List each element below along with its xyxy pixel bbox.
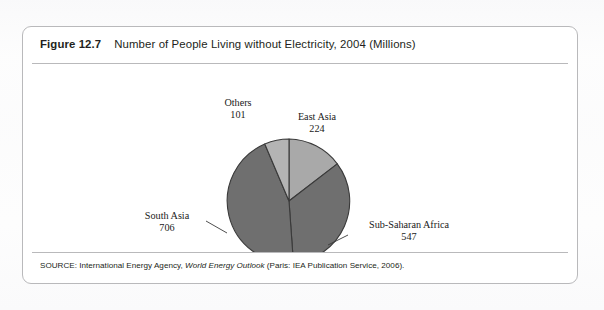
pie-label-east-asia-value: 224 — [281, 123, 353, 135]
pie-label-south-asia: South Asia 706 — [125, 210, 209, 234]
pie-label-south-asia-value: 706 — [125, 222, 209, 234]
pie-label-east-asia: East Asia 224 — [281, 111, 353, 135]
pie-label-sub-saharan-africa-value: 547 — [350, 231, 468, 243]
source-prefix: SOURCE: International Energy Agency, — [40, 261, 185, 270]
source-suffix: (Paris: IEA Publication Service, 2006). — [265, 261, 405, 270]
source-book-title: World Energy Outlook — [185, 261, 265, 270]
leader-line-south-asia — [206, 221, 227, 233]
pie-slices — [227, 139, 350, 252]
pie-label-others-name: Others — [224, 97, 251, 108]
figure-title-text: Number of People Living without Electric… — [114, 38, 415, 50]
source-divider — [32, 252, 568, 253]
pie-label-others: Others 101 — [204, 97, 272, 121]
pie-label-others-value: 101 — [204, 109, 272, 121]
pie-label-east-asia-name: East Asia — [298, 111, 336, 122]
pie-chart-svg — [23, 63, 577, 252]
pie-chart: Others 101 East Asia 224 South Asia 706 … — [23, 63, 577, 252]
pie-label-south-asia-name: South Asia — [145, 210, 189, 221]
figure-number: Figure 12.7 — [40, 38, 101, 50]
figure-container: Figure 12.7Number of People Living witho… — [22, 26, 578, 284]
figure-source: SOURCE: International Energy Agency, Wor… — [40, 261, 404, 270]
pie-label-sub-saharan-africa-name: Sub-Saharan Africa — [369, 219, 449, 230]
figure-title: Figure 12.7Number of People Living witho… — [40, 38, 416, 50]
pie-label-sub-saharan-africa: Sub-Saharan Africa 547 — [350, 219, 468, 243]
